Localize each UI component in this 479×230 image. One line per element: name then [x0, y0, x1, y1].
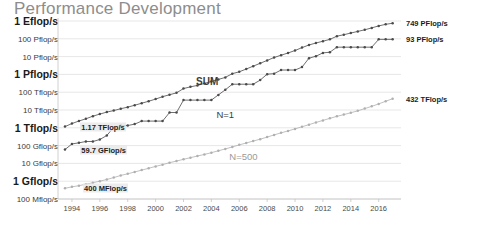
x-axis-tick-label: 2008 — [259, 204, 276, 213]
data-point — [301, 66, 304, 69]
data-point — [252, 83, 255, 86]
data-point — [273, 56, 276, 59]
data-point — [175, 92, 178, 95]
data-point — [391, 38, 394, 41]
data-point — [259, 138, 262, 141]
data-point — [357, 110, 360, 113]
data-point — [147, 120, 150, 123]
data-point — [315, 42, 318, 45]
data-point — [210, 99, 213, 102]
data-point — [92, 115, 95, 118]
data-point — [280, 69, 283, 72]
data-point — [329, 38, 332, 41]
value-annotation-sum-end: 749 PFlop/s — [405, 19, 449, 28]
data-point — [85, 140, 88, 143]
data-point — [203, 153, 206, 156]
data-point — [259, 62, 262, 64]
data-point — [210, 151, 213, 154]
data-point — [357, 46, 360, 49]
data-point — [294, 49, 297, 52]
data-point — [182, 99, 185, 102]
series-line — [65, 39, 393, 149]
data-point — [133, 171, 136, 174]
data-point — [364, 46, 367, 49]
x-axis-tick-label: 2000 — [147, 204, 164, 213]
value-annotation-n1-start: 59.7 GFlop/s — [80, 145, 127, 154]
data-point — [161, 163, 164, 166]
data-point — [329, 51, 332, 54]
data-point — [287, 69, 290, 72]
data-point — [126, 124, 129, 127]
data-point — [99, 180, 102, 183]
data-point — [315, 55, 318, 58]
data-point — [224, 76, 227, 79]
x-axis-tick-label: 2016 — [370, 204, 387, 213]
data-point — [308, 44, 311, 47]
data-point — [78, 184, 81, 187]
data-point — [322, 40, 325, 43]
data-point — [85, 118, 88, 121]
data-point — [336, 115, 339, 118]
x-axis-tick-label: 2010 — [287, 204, 304, 213]
data-point — [384, 100, 387, 103]
data-point — [322, 119, 325, 122]
data-point — [106, 178, 109, 181]
data-point — [238, 83, 241, 86]
data-point — [273, 72, 276, 75]
x-axis-tick-label: 2004 — [203, 204, 220, 213]
data-point — [168, 161, 171, 164]
data-point — [217, 150, 220, 153]
series-n-1 — [64, 38, 394, 151]
data-point — [315, 121, 318, 124]
data-point — [168, 93, 171, 96]
data-point — [224, 148, 227, 151]
data-point — [161, 120, 164, 123]
data-point — [238, 144, 241, 147]
data-point — [273, 134, 276, 137]
x-axis-tick-label: 2006 — [231, 204, 248, 213]
data-point — [391, 22, 394, 25]
data-point — [301, 125, 304, 128]
data-point — [126, 173, 129, 176]
chart-container: Performance Development 1 Eflop/s100 Pfl… — [0, 0, 479, 230]
data-point — [182, 87, 185, 90]
data-point — [252, 65, 255, 68]
data-point — [71, 122, 74, 125]
data-point — [377, 25, 380, 28]
series-label-n1: N=1 — [216, 108, 234, 119]
data-point — [64, 148, 67, 151]
data-point — [287, 52, 290, 55]
data-point — [147, 100, 150, 103]
data-point — [308, 57, 311, 60]
data-point — [99, 113, 102, 116]
x-axis-tick-label: 1994 — [64, 204, 81, 213]
data-point — [168, 111, 171, 114]
data-point — [266, 136, 269, 139]
data-point — [245, 83, 248, 86]
data-point — [231, 72, 234, 75]
data-point — [370, 105, 373, 108]
data-point — [140, 120, 143, 123]
x-axis-tick-label: 2012 — [315, 204, 332, 213]
data-point — [364, 107, 367, 110]
value-annotation-sum-start: 1.17 TFlop/s — [80, 122, 125, 131]
data-point — [140, 169, 143, 172]
data-point — [245, 68, 248, 71]
data-point — [266, 73, 269, 76]
data-point — [161, 95, 164, 98]
data-point — [343, 46, 346, 49]
data-point — [182, 158, 185, 161]
data-point — [175, 111, 178, 114]
data-point — [133, 123, 136, 126]
data-point — [106, 134, 109, 137]
data-point — [119, 107, 122, 110]
data-point — [189, 86, 192, 89]
data-point — [113, 176, 116, 179]
data-point — [343, 113, 346, 116]
data-point — [154, 120, 157, 123]
value-annotation-n1-end: 93 PFlop/s — [405, 35, 445, 44]
data-point — [119, 174, 122, 177]
data-point — [133, 104, 136, 107]
data-point — [71, 186, 74, 189]
data-point — [343, 33, 346, 36]
